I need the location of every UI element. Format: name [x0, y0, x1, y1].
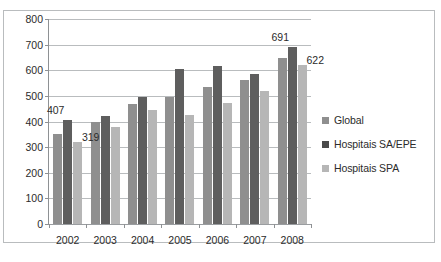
xtick-label-2008: 2008: [281, 234, 304, 246]
xtick-mark-2006: [199, 224, 200, 228]
ytick-label-800: 800: [25, 13, 43, 25]
xtick-label-2007: 2007: [243, 234, 266, 246]
gridline-0: [49, 224, 311, 225]
document-title-fragment: [0, 0, 441, 9]
xtick-mark-2008: [274, 224, 275, 228]
ytick-label-700: 700: [25, 39, 43, 51]
data-label-2008-691: 691: [272, 31, 290, 43]
plot-area: 0100200300400500600700800 20022003200420…: [49, 19, 311, 224]
legend-label-0: Global: [334, 114, 364, 126]
legend-swatch-spa: [322, 165, 329, 172]
legend-item-1: Hospitais SA/EPE: [322, 138, 432, 150]
xtick-label-2005: 2005: [168, 234, 191, 246]
xtick-label-2003: 2003: [93, 234, 116, 246]
chart-legend: GlobalHospitais SA/EPEHospitais SPA: [322, 114, 432, 186]
data-label-2002-407: 407: [47, 104, 65, 116]
data-label-2002-319: 319: [82, 131, 100, 143]
ytick-label-600: 600: [25, 64, 43, 76]
document-caption-fragment: [2, 249, 441, 262]
xtick-mark-2007: [236, 224, 237, 228]
xtick-mark-2003: [86, 224, 87, 228]
legend-swatch-sa-epe: [322, 141, 329, 148]
ytick-label-500: 500: [25, 90, 43, 102]
legend-swatch-global: [322, 117, 329, 124]
xtick-label-2004: 2004: [131, 234, 154, 246]
xtick-mark-end: [311, 224, 312, 228]
xtick-mark-2004: [124, 224, 125, 228]
ytick-label-200: 200: [25, 167, 43, 179]
xtick-mark-2002: [49, 224, 50, 228]
legend-label-1: Hospitais SA/EPE: [334, 138, 416, 150]
chart-page: 0100200300400500600700800 20022003200420…: [0, 0, 441, 262]
ytick-label-0: 0: [37, 218, 43, 230]
legend-label-2: Hospitais SPA: [334, 162, 399, 174]
chart-frame: 0100200300400500600700800 20022003200420…: [3, 10, 435, 243]
legend-item-2: Hospitais SPA: [322, 162, 432, 174]
xtick-mark-2005: [161, 224, 162, 228]
xtick-label-2006: 2006: [206, 234, 229, 246]
ytick-label-400: 400: [25, 116, 43, 128]
data-label-2008-622: 622: [307, 54, 325, 66]
legend-item-0: Global: [322, 114, 432, 126]
data-labels: 407319691622: [49, 19, 311, 224]
ytick-label-300: 300: [25, 141, 43, 153]
ytick-label-100: 100: [25, 192, 43, 204]
xtick-label-2002: 2002: [56, 234, 79, 246]
